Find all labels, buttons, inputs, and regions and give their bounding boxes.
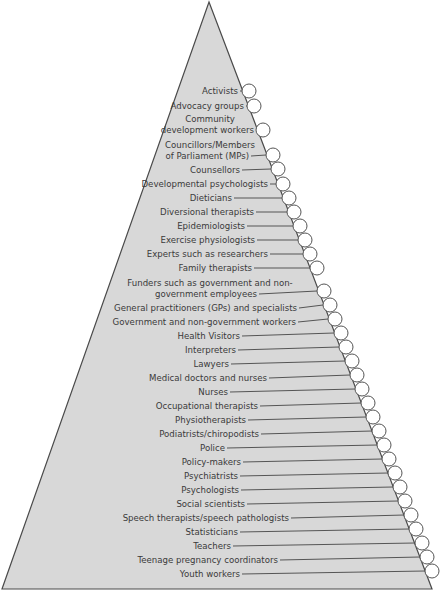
- marker-circle-icon: [415, 536, 429, 550]
- item-label: Exercise physiologists: [161, 235, 256, 245]
- item-label: Psychiatrists: [184, 471, 239, 481]
- item-label: Policy-makers: [182, 457, 242, 467]
- marker-circle-icon: [366, 410, 380, 424]
- marker-circle-icon: [409, 522, 423, 536]
- item-label: Medical doctors and nurses: [149, 373, 268, 383]
- marker-circle-icon: [388, 466, 402, 480]
- marker-circle-icon: [271, 162, 285, 176]
- item-label: Epidemiologists: [177, 221, 245, 231]
- item-label: Health Visitors: [177, 331, 240, 341]
- marker-circle-icon: [404, 508, 418, 522]
- item-label: Police: [200, 443, 225, 453]
- marker-circle-icon: [382, 452, 396, 466]
- item-label: development workers: [161, 125, 255, 135]
- marker-circle-icon: [242, 84, 256, 98]
- item-label: Lawyers: [194, 359, 230, 369]
- item-label: Diversional therapists: [160, 207, 254, 217]
- marker-circle-icon: [339, 340, 353, 354]
- marker-circle-icon: [355, 382, 369, 396]
- marker-circle-icon: [361, 396, 375, 410]
- marker-circle-icon: [303, 247, 317, 261]
- marker-circle-icon: [317, 284, 331, 298]
- item-label: Statisticians: [186, 527, 239, 537]
- marker-circle-icon: [393, 480, 407, 494]
- item-label: Physiotherapists: [175, 415, 246, 425]
- item-label: Funders such as government and non-: [127, 278, 292, 288]
- item-label: Advocacy groups: [171, 101, 245, 111]
- item-label: of Parliament (MPs): [166, 151, 250, 161]
- item-label: Interpreters: [185, 345, 236, 355]
- marker-circle-icon: [328, 312, 342, 326]
- marker-circle-icon: [282, 191, 296, 205]
- marker-circle-icon: [298, 233, 312, 247]
- item-label: Occupational therapists: [156, 401, 259, 411]
- item-label: Councillors/Members: [165, 140, 256, 150]
- marker-circle-icon: [425, 564, 439, 578]
- item-label: Nurses: [198, 387, 228, 397]
- pyramid-item: Activists: [202, 84, 256, 98]
- item-label: Experts such as researchers: [147, 249, 269, 259]
- item-label: Dieticians: [190, 193, 233, 203]
- item-label: General practitioners (GPs) and speciali…: [114, 303, 298, 313]
- item-label: Teenage pregnancy coordinators: [136, 555, 278, 565]
- marker-circle-icon: [345, 354, 359, 368]
- item-label: Activists: [202, 86, 239, 96]
- item-label: Podiatrists/chiropodists: [159, 429, 259, 439]
- marker-circle-icon: [398, 494, 412, 508]
- item-label: Teachers: [192, 541, 231, 551]
- marker-circle-icon: [266, 148, 280, 162]
- pyramid-item: Developmental psychologists: [142, 177, 291, 191]
- marker-circle-icon: [276, 177, 290, 191]
- marker-circle-icon: [247, 99, 261, 113]
- marker-circle-icon: [372, 424, 386, 438]
- pyramid-svg: ActivistsAdvocacy groupsCommunitydevelop…: [0, 0, 443, 595]
- marker-circle-icon: [334, 326, 348, 340]
- item-label: Family therapists: [179, 263, 253, 273]
- item-label: Psychologists: [181, 485, 239, 495]
- marker-circle-icon: [323, 298, 337, 312]
- item-label: Counsellors: [190, 165, 240, 175]
- pyramid-diagram: ActivistsAdvocacy groupsCommunitydevelop…: [0, 0, 443, 595]
- item-label: Community: [185, 114, 235, 124]
- item-label: Developmental psychologists: [142, 179, 269, 189]
- item-label: Youth workers: [179, 569, 241, 579]
- marker-circle-icon: [377, 438, 391, 452]
- marker-circle-icon: [420, 550, 434, 564]
- marker-circle-icon: [293, 219, 307, 233]
- item-label: Speech therapists/speech pathologists: [123, 513, 290, 523]
- marker-circle-icon: [256, 123, 270, 137]
- item-label: government employees: [155, 289, 258, 299]
- marker-circle-icon: [287, 205, 301, 219]
- item-label: Government and non-government workers: [113, 317, 297, 327]
- item-label: Social scientists: [176, 499, 245, 509]
- marker-circle-icon: [350, 368, 364, 382]
- marker-circle-icon: [310, 261, 324, 275]
